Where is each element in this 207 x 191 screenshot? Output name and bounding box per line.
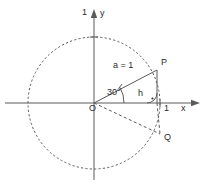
right-angle-dot-icon	[151, 97, 153, 99]
unit-circle-diagram: 1 y 1 x O P Q a = 1 h 30°	[0, 0, 207, 191]
y-axis-tick-label: 1	[82, 8, 87, 17]
origin-label: O	[89, 104, 96, 113]
angle-label: 30°	[107, 88, 121, 97]
x-axis-tick-label: 1	[164, 104, 169, 113]
diagram-canvas	[0, 0, 207, 191]
point-p-label: P	[161, 58, 167, 67]
segment-op	[94, 70, 157, 103]
x-axis-arrow-icon	[191, 100, 200, 106]
y-axis-label: y	[100, 9, 105, 18]
segment-op-length-label: a = 1	[113, 61, 133, 70]
point-q-label: Q	[164, 133, 171, 142]
segment-height-label: h	[138, 89, 143, 98]
segment-oq	[94, 103, 160, 134]
x-axis-label: x	[181, 104, 186, 113]
y-axis-arrow-icon	[91, 9, 97, 18]
